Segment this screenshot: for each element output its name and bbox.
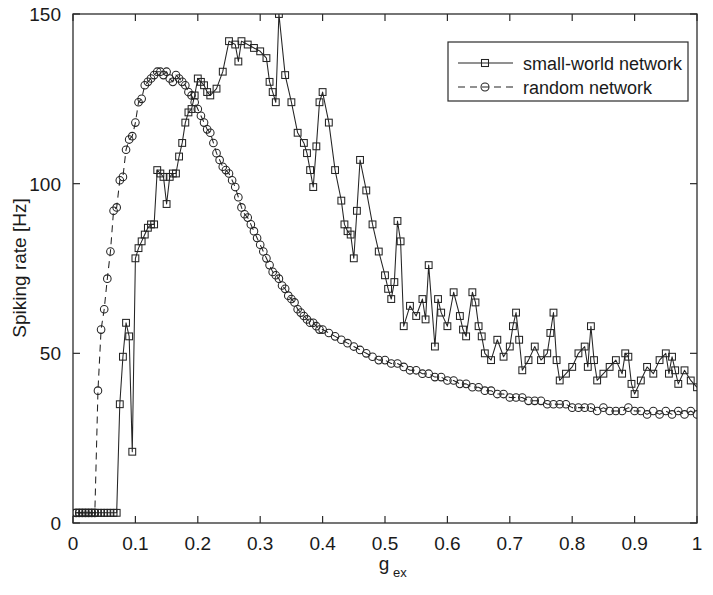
- x-tick-label: 0.4: [309, 533, 336, 554]
- spiking-rate-figure: 00.10.20.30.40.50.60.70.80.91 050100150 …: [0, 0, 713, 595]
- legend: small-world network random network: [448, 42, 688, 101]
- y-tick-label: 100: [29, 174, 61, 195]
- x-tick-label: 0.6: [434, 533, 460, 554]
- chart-canvas: 00.10.20.30.40.50.60.70.80.91 050100150 …: [0, 0, 713, 595]
- x-tick-label: 0.7: [497, 533, 523, 554]
- x-tick-label: 0.8: [559, 533, 585, 554]
- x-tick-label: 0.3: [247, 533, 273, 554]
- x-axis-title: g: [379, 553, 390, 574]
- x-axis-tick-labels: 00.10.20.30.40.50.60.70.80.91: [68, 533, 703, 554]
- x-tick-label: 0.2: [185, 533, 211, 554]
- y-tick-label: 150: [29, 4, 61, 25]
- x-tick-label: 0.5: [372, 533, 398, 554]
- x-tick-label: 0: [68, 533, 79, 554]
- legend-label-random: random network: [523, 78, 653, 98]
- legend-label-small-world: small-world network: [523, 54, 683, 74]
- x-tick-label: 0.9: [621, 533, 647, 554]
- x-tick-label: 0.1: [122, 533, 148, 554]
- x-tick-label: 1: [692, 533, 703, 554]
- y-tick-label: 50: [40, 343, 61, 364]
- y-tick-label: 0: [50, 513, 61, 534]
- y-axis-title: Spiking rate [Hz]: [9, 198, 30, 337]
- x-axis-title-subscript: ex: [393, 565, 407, 580]
- y-axis-tick-labels: 050100150: [29, 4, 61, 534]
- data-point-marker: [231, 183, 239, 191]
